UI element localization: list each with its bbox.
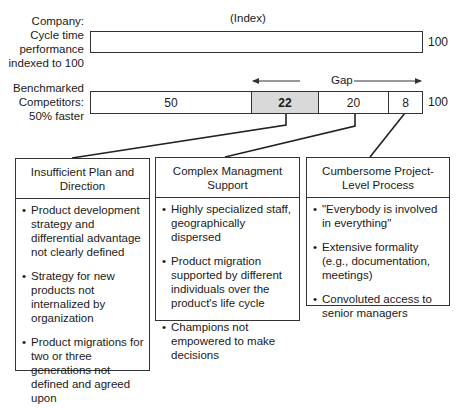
list-item: •Champions not empowered to make decisio…: [162, 320, 295, 362]
box-cumbersome-process: Cumbersome Project-Level Process •"Every…: [306, 157, 450, 306]
segment-22: 22: [252, 92, 319, 113]
bullet-icon: •: [22, 203, 26, 217]
segment-50: 50: [91, 92, 252, 113]
list-item: •Extensive formality (e.g., documentatio…: [313, 240, 445, 282]
connector-22: [72, 113, 286, 158]
box-list: •Product development strategy and differ…: [16, 199, 149, 408]
list-item-text: Product migration supported by different…: [171, 255, 282, 309]
bullet-icon: •: [162, 202, 166, 216]
list-item-text: Convoluted access to senior managers: [322, 293, 432, 319]
gap-label: Gap: [330, 74, 354, 86]
bullet-icon: •: [162, 254, 166, 268]
box-list: •Highly specialized staff, geographicall…: [156, 198, 299, 368]
bullet-icon: •: [313, 240, 317, 254]
box-list: •"Everybody is involved in everything" •…: [307, 198, 449, 326]
list-item: •Highly specialized staff, geographicall…: [162, 202, 295, 244]
list-item-text: Product development strategy and differe…: [31, 204, 141, 258]
bullet-icon: •: [22, 269, 26, 283]
list-item-text: "Everybody is involved in everything": [322, 203, 437, 229]
segment-8: 8: [389, 92, 422, 113]
list-item: •Strategy for new products not internali…: [22, 269, 145, 325]
box-title: Complex Managment Support: [156, 158, 299, 198]
list-item: •Product migration supported by differen…: [162, 254, 295, 310]
connector-8: [370, 113, 405, 157]
bullet-icon: •: [22, 335, 26, 349]
list-item: •Product development strategy and differ…: [22, 203, 145, 259]
competitors-bar: 50 22 20 8: [90, 91, 423, 114]
list-item-text: Extensive formality (e.g., documentation…: [322, 241, 430, 281]
list-item: •Convoluted access to senior managers: [313, 292, 445, 320]
segment-20: 20: [319, 92, 389, 113]
list-item: •Product migrations for two or three gen…: [22, 335, 145, 405]
competitors-total: 100: [428, 95, 448, 109]
list-item-text: Champions not empowered to make decision…: [171, 321, 275, 361]
box-insufficient-plan: Insufficient Plan and Direction •Product…: [15, 158, 150, 371]
list-item: •"Everybody is involved in everything": [313, 202, 445, 230]
box-complex-management: Complex Managment Support •Highly specia…: [155, 157, 300, 321]
box-title: Cumbersome Project-Level Process: [307, 158, 449, 198]
bullet-icon: •: [162, 320, 166, 334]
list-item-text: Strategy for new products not internaliz…: [31, 270, 115, 324]
box-title: Insufficient Plan and Direction: [16, 159, 149, 199]
connector-20: [225, 113, 355, 157]
list-item-text: Product migrations for two or three gene…: [31, 336, 144, 404]
bullet-icon: •: [313, 292, 317, 306]
bullet-icon: •: [313, 202, 317, 216]
list-item-text: Highly specialized staff, geographically…: [171, 203, 291, 243]
